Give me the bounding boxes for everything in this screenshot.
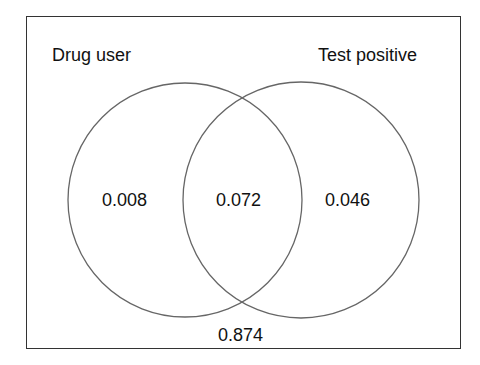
region-drug-user-only: 0.008	[102, 191, 147, 209]
region-outside: 0.874	[218, 326, 263, 344]
region-test-positive-only: 0.046	[325, 191, 370, 209]
set-label-test-positive: Test positive	[318, 46, 417, 64]
region-intersection: 0.072	[216, 191, 261, 209]
set-label-drug-user: Drug user	[52, 46, 131, 64]
